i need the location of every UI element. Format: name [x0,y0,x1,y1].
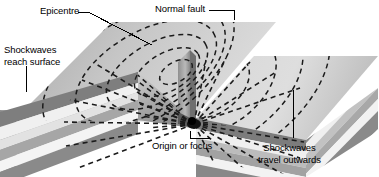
label-normal-fault: Normal fault [155,3,205,15]
label-epicentre: Epicentre [40,5,79,17]
normal-fault-scarp [178,50,196,128]
diagram-canvas: Epicentre Normal fault Shockwaves reach … [0,0,379,177]
label-origin-or-focus: Origin or focus [152,140,212,152]
label-shockwaves-reach-surface: Shockwaves reach surface [4,44,60,67]
leader-normal-fault [209,10,234,20]
label-shockwaves-travel-outwards: Shockwaves travel outwards [258,142,321,165]
